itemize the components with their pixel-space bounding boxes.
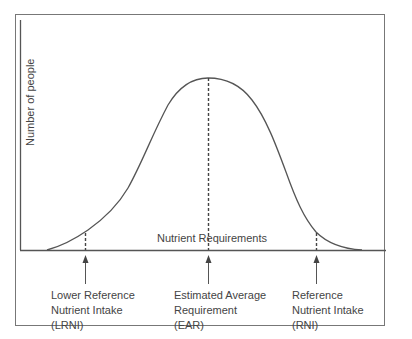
x-axis-label: Nutrient Requirements [157, 232, 267, 244]
ear-label-line-2: Requirement [174, 303, 266, 318]
y-axis-label: Number of people [24, 59, 36, 146]
rni-label-line-2: Nutrient Intake [292, 303, 364, 318]
bell-curve [47, 78, 362, 250]
lrni-label-line-2: Nutrient Intake [51, 303, 135, 318]
lrni-arrow-icon [83, 255, 89, 284]
lrni-label: Lower Reference Nutrient Intake (LRNI) [51, 288, 135, 333]
ear-label: Estimated Average Requirement (EAR) [174, 288, 266, 333]
rni-label-line-1: Reference [292, 288, 364, 303]
lrni-label-line-1: Lower Reference [51, 288, 135, 303]
ear-label-line-3: (EAR) [174, 318, 266, 333]
lrni-label-line-3: (LRNI) [51, 318, 135, 333]
rni-arrow-icon [314, 255, 320, 284]
rni-label: Reference Nutrient Intake (RNI) [292, 288, 364, 333]
ear-arrow-icon [206, 255, 212, 284]
ear-label-line-1: Estimated Average [174, 288, 266, 303]
rni-label-line-3: (RNI) [292, 318, 364, 333]
